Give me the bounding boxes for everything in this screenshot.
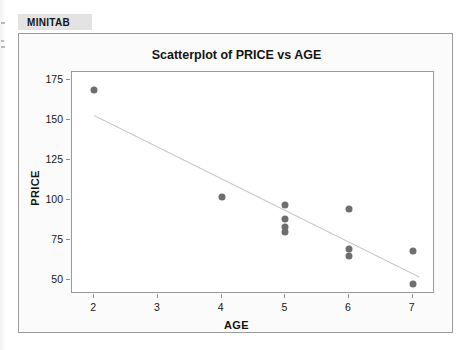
x-tick-mark xyxy=(412,294,413,298)
data-point xyxy=(346,252,353,259)
y-tick-mark xyxy=(66,159,70,160)
y-tick-mark xyxy=(66,79,70,80)
x-tick-label: 4 xyxy=(218,301,224,313)
plot-area xyxy=(71,71,434,293)
x-axis-label: AGE xyxy=(19,319,454,331)
x-tick-label: 6 xyxy=(345,301,351,313)
x-tick-label: 2 xyxy=(90,301,96,313)
x-tick-label: 7 xyxy=(409,301,415,313)
y-tick-mark xyxy=(66,119,70,120)
y-tick-label: 125 xyxy=(29,153,63,165)
x-tick-mark xyxy=(284,294,285,298)
data-point xyxy=(409,281,416,288)
y-tick-label: 100 xyxy=(29,193,63,205)
x-tick-mark xyxy=(221,294,222,298)
figure-panel: Scatterplot of PRICE vs AGE PRICE 507510… xyxy=(18,33,453,333)
data-point xyxy=(282,215,289,222)
regression-line xyxy=(94,115,419,278)
y-tick-mark xyxy=(66,199,70,200)
y-tick-mark xyxy=(66,239,70,240)
x-tick-mark xyxy=(348,294,349,298)
x-tick-mark xyxy=(93,294,94,298)
plot-inner xyxy=(72,72,433,292)
minitab-tab: MINITAB xyxy=(18,14,92,30)
x-tick-mark xyxy=(157,294,158,298)
y-tick-label: 175 xyxy=(29,73,63,85)
y-tick-label: 150 xyxy=(29,113,63,125)
minitab-tab-label: MINITAB xyxy=(27,17,70,28)
data-point xyxy=(346,206,353,213)
y-tick-label: 75 xyxy=(29,233,63,245)
data-point xyxy=(282,228,289,235)
x-tick-label: 5 xyxy=(281,301,287,313)
data-point xyxy=(218,193,225,200)
y-tick-label: 50 xyxy=(29,273,63,285)
scan-speck xyxy=(1,40,4,42)
data-point xyxy=(91,86,98,93)
scan-speck xyxy=(1,46,5,48)
data-point xyxy=(282,201,289,208)
scan-edge-artifact xyxy=(0,0,6,350)
data-point xyxy=(409,247,416,254)
scan-speck xyxy=(1,22,5,24)
y-tick-mark xyxy=(66,279,70,280)
chart-title: Scatterplot of PRICE vs AGE xyxy=(19,48,454,62)
x-tick-label: 3 xyxy=(154,301,160,313)
